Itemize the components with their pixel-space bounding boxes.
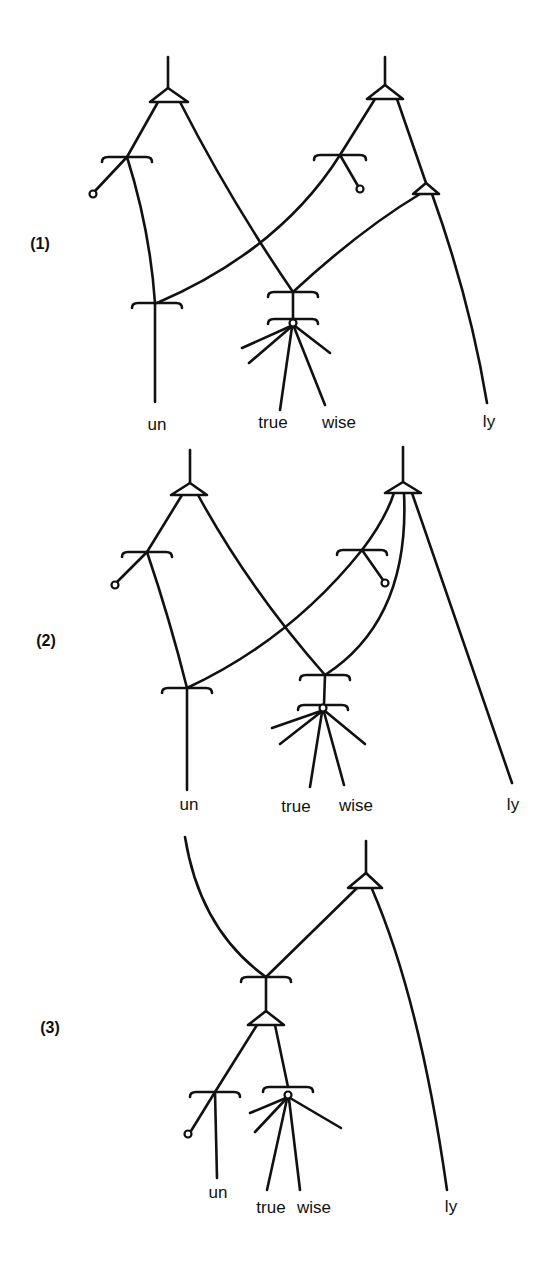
circle-terminal-icon [90,191,97,198]
morpheme-label-true: true [281,797,310,816]
morpheme-label-ly: ly [507,795,520,814]
diagram-number-label: (1) [30,235,50,252]
morpheme-label-un: un [148,415,167,434]
diagram-number-label: (3) [40,1019,60,1036]
morpheme-label-wise: wise [296,1198,331,1217]
circle-terminal-icon [290,320,297,327]
morpheme-label-un: un [180,795,199,814]
morpheme-label-true: true [258,413,287,432]
morpheme-label-ly: ly [445,1197,458,1216]
connector-line [324,675,325,705]
circle-terminal-icon [382,580,389,587]
morpheme-label-wise: wise [321,413,356,432]
morpheme-label-ly: ly [483,412,496,431]
circle-terminal-icon [357,186,364,193]
morpheme-label-wise: wise [338,796,373,815]
circle-terminal-icon [285,1092,292,1099]
morpheme-label-un: un [209,1183,228,1202]
circle-terminal-icon [185,1131,192,1138]
morphology-tree-figure: (1)untruewisely (2)untruewisely (3)untru… [0,0,544,1272]
circle-terminal-icon [320,705,327,712]
diagram-number-label: (2) [36,632,56,649]
circle-terminal-icon [112,582,119,589]
morpheme-label-true: true [256,1198,285,1217]
